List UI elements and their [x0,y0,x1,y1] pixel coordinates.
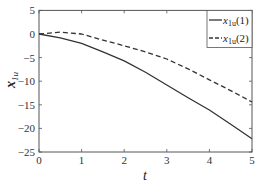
x-tick-label: 0 [36,154,42,166]
y-tick-label: −10 [18,75,36,87]
y-tick-label: −20 [18,122,36,134]
legend-entry-1: x1u(1) [222,14,249,28]
svg-text:x1u: x1u [3,72,20,90]
y-tick-label: −15 [18,99,36,111]
y-tick-label: 0 [30,28,36,40]
y-tick-label: −5 [23,52,35,64]
x-axis-label: t [143,168,148,183]
x-tick-label: 5 [249,154,255,166]
line-chart: 50−5−10−15−20−25 012345 x1u(1) x1u(2) t … [0,0,259,186]
y-tick-label: −25 [18,146,36,158]
x-tick-label: 2 [121,154,127,166]
y-axis-label: x1u [3,72,20,90]
legend: x1u(1) x1u(2) [207,10,252,47]
x-tick-label: 3 [164,154,170,166]
x-tick-label: 4 [207,154,213,166]
legend-entry-2: x1u(2) [222,32,249,46]
x-tick-label: 1 [79,154,85,166]
y-tick-label: 5 [30,4,36,16]
